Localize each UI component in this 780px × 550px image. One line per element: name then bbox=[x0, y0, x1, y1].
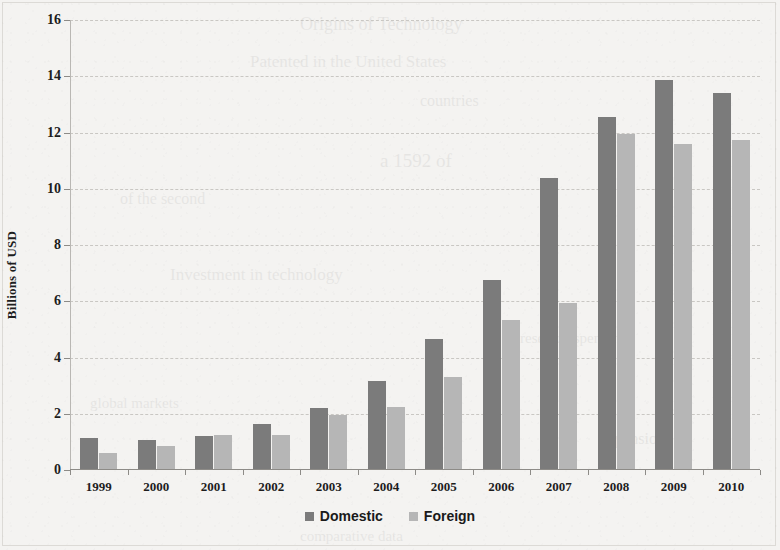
y-tick-label: 6 bbox=[54, 293, 61, 309]
bar-foreign-2009 bbox=[674, 144, 692, 470]
x-tick-mark bbox=[588, 470, 589, 475]
bar-group bbox=[703, 20, 761, 470]
y-tick-label: 12 bbox=[47, 125, 61, 141]
bar-group bbox=[70, 20, 128, 470]
bar-domestic-2007 bbox=[540, 178, 558, 471]
bar-foreign-2006 bbox=[502, 320, 520, 470]
bar-foreign-2002 bbox=[272, 435, 290, 470]
y-axis-title: Billions of USD bbox=[4, 231, 20, 319]
bar-foreign-2007 bbox=[559, 303, 577, 470]
y-tick-label: 2 bbox=[54, 406, 61, 422]
bar-domestic-2006 bbox=[483, 280, 501, 470]
x-tick-mark bbox=[415, 470, 416, 475]
bar-group bbox=[185, 20, 243, 470]
bar-foreign-2003 bbox=[329, 415, 347, 470]
x-tick-mark bbox=[128, 470, 129, 475]
x-tick-mark bbox=[530, 470, 531, 475]
y-tick-label: 0 bbox=[54, 462, 61, 478]
legend-item-foreign[interactable]: Foreign bbox=[409, 508, 475, 524]
x-tick-label-2008: 2008 bbox=[603, 479, 629, 495]
y-tick-label: 16 bbox=[47, 12, 61, 28]
bar-domestic-2003 bbox=[310, 408, 328, 470]
legend-swatch-icon bbox=[409, 512, 418, 521]
x-tick-label-2000: 2000 bbox=[143, 479, 169, 495]
x-tick-label-1999: 1999 bbox=[86, 479, 112, 495]
y-tick-label: 4 bbox=[54, 350, 61, 366]
x-tick-label-2010: 2010 bbox=[718, 479, 744, 495]
bar-domestic-2004 bbox=[368, 381, 386, 470]
bar-foreign-1999 bbox=[99, 453, 117, 470]
x-tick-label-2007: 2007 bbox=[546, 479, 572, 495]
bar-foreign-2008 bbox=[617, 134, 635, 470]
bar-foreign-2004 bbox=[387, 407, 405, 470]
chart-legend: DomesticForeign bbox=[0, 508, 780, 524]
x-tick-mark bbox=[645, 470, 646, 475]
chart-page: Origins of TechnologyPatented in the Uni… bbox=[0, 0, 780, 550]
x-tick-mark bbox=[760, 470, 761, 475]
bar-foreign-2005 bbox=[444, 377, 462, 470]
bar-group bbox=[530, 20, 588, 470]
x-tick-mark bbox=[358, 470, 359, 475]
x-tick-label-2009: 2009 bbox=[661, 479, 687, 495]
bar-domestic-2010 bbox=[713, 93, 731, 470]
plot-area: 0246810121416 19992000200120022003200420… bbox=[70, 20, 760, 470]
y-tick-label: 14 bbox=[47, 68, 61, 84]
y-tick-label: 8 bbox=[54, 237, 61, 253]
x-tick-label-2001: 2001 bbox=[201, 479, 227, 495]
legend-label: Foreign bbox=[424, 508, 475, 524]
legend-item-domestic[interactable]: Domestic bbox=[305, 508, 383, 524]
x-tick-mark bbox=[185, 470, 186, 475]
x-tick-label-2002: 2002 bbox=[258, 479, 284, 495]
bar-domestic-2005 bbox=[425, 339, 443, 470]
x-tick-label-2004: 2004 bbox=[373, 479, 399, 495]
x-tick-label-2006: 2006 bbox=[488, 479, 514, 495]
bar-group bbox=[128, 20, 186, 470]
bar-domestic-2002 bbox=[253, 424, 271, 470]
bar-group bbox=[588, 20, 646, 470]
x-tick-mark bbox=[300, 470, 301, 475]
bar-group bbox=[415, 20, 473, 470]
bar-domestic-2008 bbox=[598, 117, 616, 470]
x-tick-mark bbox=[70, 470, 71, 475]
y-tick-label: 10 bbox=[47, 181, 61, 197]
x-tick-label-2003: 2003 bbox=[316, 479, 342, 495]
bar-group bbox=[300, 20, 358, 470]
bar-foreign-2010 bbox=[732, 140, 750, 470]
legend-swatch-icon bbox=[305, 512, 314, 521]
bar-domestic-1999 bbox=[80, 438, 98, 470]
bar-domestic-2009 bbox=[655, 80, 673, 470]
bar-domestic-2000 bbox=[138, 440, 156, 470]
x-tick-label-2005: 2005 bbox=[431, 479, 457, 495]
x-tick-mark bbox=[703, 470, 704, 475]
bar-group bbox=[243, 20, 301, 470]
bar-group bbox=[645, 20, 703, 470]
bar-domestic-2001 bbox=[195, 436, 213, 470]
bar-foreign-2001 bbox=[214, 435, 232, 470]
legend-label: Domestic bbox=[320, 508, 383, 524]
ghost-text: comparative data bbox=[300, 528, 403, 545]
x-tick-mark bbox=[473, 470, 474, 475]
bar-foreign-2000 bbox=[157, 446, 175, 470]
x-tick-mark bbox=[243, 470, 244, 475]
bar-group bbox=[473, 20, 531, 470]
bar-group bbox=[358, 20, 416, 470]
